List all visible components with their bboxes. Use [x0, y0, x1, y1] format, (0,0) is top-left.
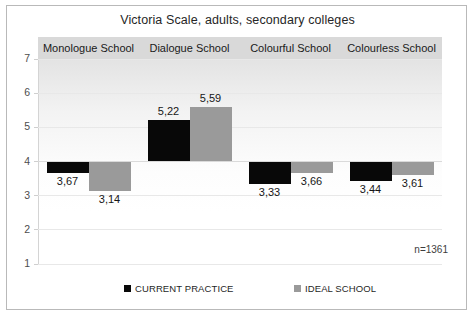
chart-frame: Victoria Scale, adults, secondary colleg…: [6, 5, 467, 310]
category-label-monologue: Monologue School: [38, 37, 139, 59]
legend-entry-current-practice[interactable]: CURRENT PRACTICE: [124, 283, 234, 294]
gridline-6: [38, 93, 442, 94]
tick-mark-5: [34, 127, 38, 128]
bar-ideal-school-2[interactable]: [190, 107, 232, 161]
legend-label-ideal-school: IDEAL SCHOOL: [305, 283, 376, 294]
chart-legend: CURRENT PRACTICE IDEAL SCHOOL: [38, 283, 442, 299]
value-axis-tick-5: 5: [8, 120, 30, 132]
tick-mark-4: [34, 161, 38, 162]
bar-label-current-practice-3: 3,33: [249, 186, 291, 198]
value-axis-tick-6: 6: [8, 86, 30, 98]
tick-mark-3: [34, 195, 38, 196]
bar-label-ideal-school-1: 3,14: [89, 193, 131, 205]
plot-area: 3,673,145,225,593,333,663,443,61: [38, 59, 442, 264]
sample-size-annotation: n=1361: [414, 244, 448, 255]
gridline-5: [38, 127, 442, 128]
bar-label-current-practice-1: 3,67: [47, 175, 89, 187]
bar-ideal-school-3[interactable]: [291, 162, 333, 174]
value-axis-tick-7: 7: [8, 52, 30, 64]
value-axis-tick-1: 1: [8, 257, 30, 269]
legend-label-current-practice: CURRENT PRACTICE: [135, 283, 234, 294]
tick-mark-6: [34, 93, 38, 94]
tick-mark-1: [34, 264, 38, 265]
bar-current-practice-3[interactable]: [249, 162, 291, 185]
value-axis-tick-2: 2: [8, 223, 30, 235]
tick-mark-7: [34, 59, 38, 60]
gridline-2: [38, 229, 442, 230]
legend-swatch-ideal-school: [294, 285, 301, 292]
legend-swatch-current-practice: [124, 285, 131, 292]
gridline-7: [38, 59, 442, 60]
value-axis-tick-3: 3: [8, 189, 30, 201]
value-axis-tick-4: 4: [8, 155, 30, 167]
bar-current-practice-1[interactable]: [47, 162, 89, 173]
bar-ideal-school-1[interactable]: [89, 162, 131, 191]
category-label-dialogue: Dialogue School: [139, 37, 240, 59]
bar-label-ideal-school-2: 5,59: [190, 92, 232, 104]
bar-current-practice-4[interactable]: [350, 162, 392, 181]
bar-ideal-school-4[interactable]: [392, 162, 434, 175]
bar-current-practice-2[interactable]: [148, 120, 190, 162]
bar-label-current-practice-4: 3,44: [350, 183, 392, 195]
tick-mark-2: [34, 229, 38, 230]
bar-label-ideal-school-3: 3,66: [291, 175, 333, 187]
category-axis-band: Monologue School Dialogue School Colourf…: [38, 37, 442, 59]
bar-label-ideal-school-4: 3,61: [392, 177, 434, 189]
category-label-colourful: Colourful School: [240, 37, 341, 59]
bar-label-current-practice-2: 5,22: [148, 105, 190, 117]
chart-title: Victoria Scale, adults, secondary colleg…: [7, 13, 468, 27]
gridline-1: [38, 264, 442, 265]
category-label-colourless: Colourless School: [341, 37, 442, 59]
legend-entry-ideal-school[interactable]: IDEAL SCHOOL: [294, 283, 376, 294]
